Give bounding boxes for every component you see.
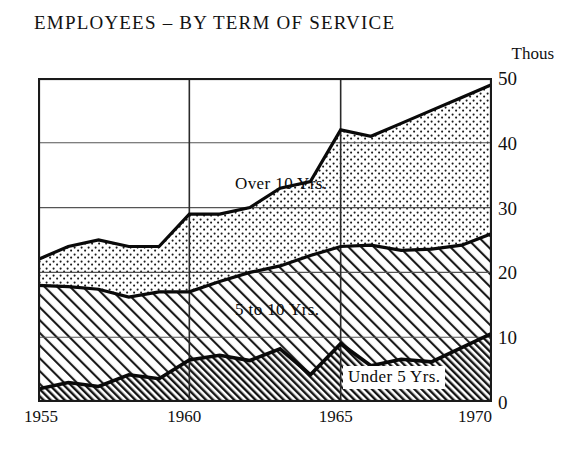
y-axis-tick-label: 20 <box>498 263 517 282</box>
y-axis-tick-label: 40 <box>498 134 517 153</box>
stacked-area-svg <box>38 78 492 402</box>
y-axis-tick-labels: 01020304050 <box>498 0 564 456</box>
band-label-5-to-10-years: 5 to 10 Yrs. <box>235 300 319 320</box>
chart-container: EMPLOYEES – BY TERM OF SERVICE Thous <box>0 0 564 456</box>
y-axis-tick-label: 30 <box>498 199 517 218</box>
band-label-over-10-years: Over 10 Yrs. <box>235 174 327 194</box>
y-axis-tick-label: 10 <box>498 328 517 347</box>
chart-title: EMPLOYEES – BY TERM OF SERVICE <box>34 12 395 34</box>
x-axis-tick-label: 1970 <box>458 408 492 425</box>
x-axis-tick-labels: 1955196019651970 <box>0 408 564 438</box>
y-axis-tick-label: 50 <box>498 69 517 88</box>
x-axis-tick-label: 1955 <box>24 408 58 425</box>
band-label-under-5-years: Under 5 Yrs. <box>343 366 445 389</box>
x-axis-tick-label: 1965 <box>319 408 353 425</box>
plot-area: Over 10 Yrs. 5 to 10 Yrs. Under 5 Yrs. <box>38 78 492 402</box>
x-axis-tick-label: 1960 <box>167 408 201 425</box>
